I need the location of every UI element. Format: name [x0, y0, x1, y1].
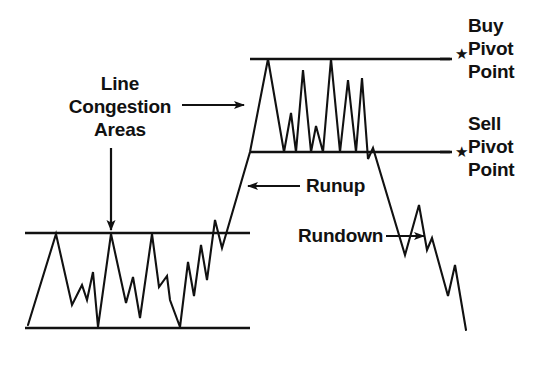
sell-pivot-star-icon: ★ [455, 144, 468, 159]
buy-pivot-point-label: Buy Pivot Point [468, 14, 538, 83]
runup-label: Runup [306, 174, 365, 197]
rundown-label: Rundown [298, 224, 383, 247]
buy-pivot-star-icon: ★ [455, 46, 468, 61]
sell-pivot-point-label: Sell Pivot Point [468, 112, 538, 181]
diagram-canvas: ★ ★ Line Congestion Areas Buy Pivot Poin… [0, 0, 538, 376]
line-congestion-areas-label: Line Congestion Areas [40, 72, 200, 141]
